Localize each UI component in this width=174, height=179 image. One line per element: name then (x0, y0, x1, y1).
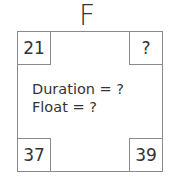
node-label: F (0, 2, 174, 30)
node-details: Duration = ? Float = ? (32, 80, 124, 116)
early-finish-box: ? (129, 31, 163, 65)
early-start-box: 21 (17, 31, 51, 65)
duration-text: Duration = ? (32, 80, 124, 98)
activity-node-box: 21 ? Duration = ? Float = ? 37 39 (17, 31, 163, 172)
late-start-box: 37 (17, 138, 51, 172)
float-text: Float = ? (32, 98, 124, 116)
late-finish-box: 39 (129, 138, 163, 172)
